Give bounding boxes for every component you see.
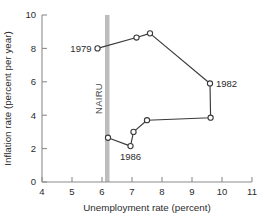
- x-tick-label: 10: [217, 186, 228, 197]
- y-tick-label: 10: [25, 9, 36, 20]
- nairu-band: [105, 15, 110, 182]
- data-point-marker: [207, 81, 212, 86]
- y-tick-label: 8: [31, 43, 36, 54]
- x-tick-label: 9: [189, 186, 194, 197]
- data-point-marker: [144, 118, 149, 123]
- y-axis-tick-labels: 0246810: [25, 9, 36, 187]
- data-point-marker: [208, 115, 213, 120]
- x-axis-ticks: [42, 177, 252, 182]
- year-label-1986: 1986: [120, 151, 141, 162]
- y-tick-label: 4: [31, 110, 36, 121]
- data-point-marker: [95, 46, 100, 51]
- x-tick-label: 7: [129, 186, 134, 197]
- data-point-marker: [105, 135, 110, 140]
- x-axis-tick-labels: 4567891011: [39, 186, 257, 197]
- year-label-1982: 1982: [216, 78, 237, 89]
- x-tick-label: 8: [159, 186, 164, 197]
- year-label-1979: 1979: [70, 43, 91, 54]
- data-point-marker: [134, 35, 139, 40]
- x-axis-title: Unemployment rate (percent): [83, 202, 210, 213]
- nairu-label: NAIRU: [93, 83, 104, 114]
- chart-canvas: 0246810 4567891011 197919821986NAIRU Une…: [0, 0, 265, 219]
- y-axis-ticks: [42, 15, 47, 182]
- y-tick-label: 0: [31, 176, 36, 187]
- x-tick-label: 5: [69, 186, 74, 197]
- x-tick-label: 6: [99, 186, 104, 197]
- data-point-markers: [95, 31, 213, 149]
- data-line-series: [98, 33, 211, 146]
- x-tick-label: 4: [39, 186, 44, 197]
- x-tick-label: 11: [247, 186, 257, 197]
- data-point-marker: [147, 31, 152, 36]
- y-tick-label: 6: [31, 76, 36, 87]
- y-tick-label: 2: [31, 143, 36, 154]
- phillips-curve-chart: 0246810 4567891011 197919821986NAIRU Une…: [0, 0, 265, 219]
- data-point-marker: [128, 143, 133, 148]
- data-point-marker: [131, 129, 136, 134]
- annotation-labels: 197919821986NAIRU: [70, 43, 237, 162]
- y-axis-title: Inflation rate (percent per year): [2, 31, 13, 166]
